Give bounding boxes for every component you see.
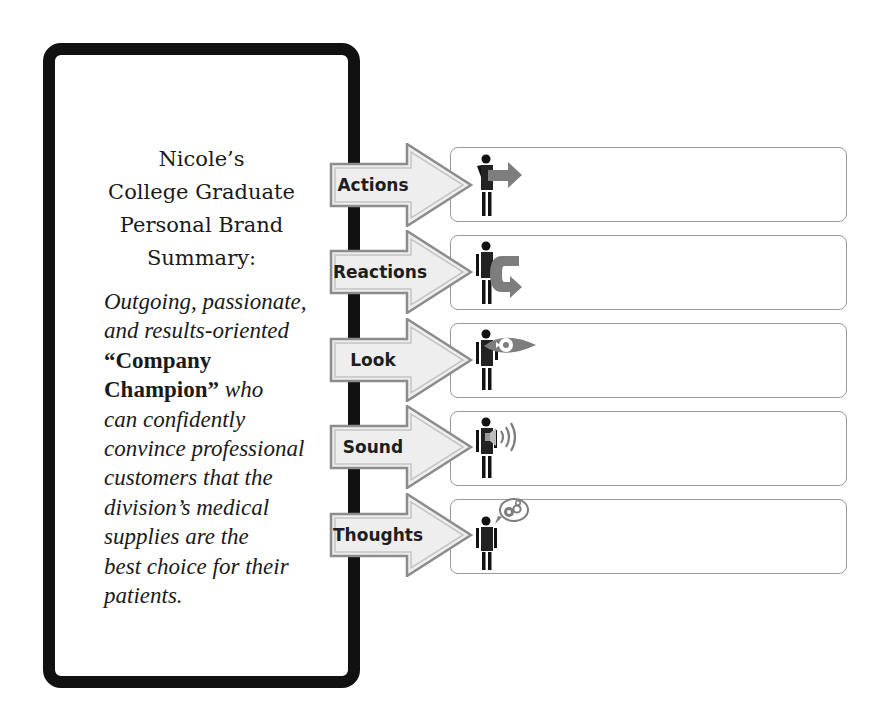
title-line-3: Personal Brand	[55, 209, 348, 242]
person-return-arrow-icon	[474, 240, 534, 306]
summary-line-6: convince professional	[104, 434, 354, 463]
title-line-1: Nicole’s	[55, 143, 348, 176]
actions-arrow: Actions	[329, 143, 475, 227]
sound-label: Sound	[333, 433, 413, 461]
person-pointing-arrow-icon	[474, 154, 534, 218]
panel-title: Nicole’s College Graduate Personal Brand…	[55, 143, 348, 275]
summary-line-4-bold: Champion”	[104, 377, 219, 402]
summary-line-4: Champion” who	[104, 375, 354, 404]
title-line-4: Summary:	[55, 242, 348, 275]
title-line-2: College Graduate	[55, 176, 348, 209]
person-eye-icon	[474, 328, 540, 392]
look-label: Look	[333, 346, 413, 374]
thoughts-arrow: Thoughts	[329, 493, 475, 577]
person-thought-gears-icon	[474, 496, 540, 572]
summary-line-1: Outgoing, passionate,	[104, 287, 354, 316]
summary-line-7: customers that the	[104, 463, 354, 492]
summary-line-8: division’s medical	[104, 493, 354, 522]
reactions-label: Reactions	[333, 258, 413, 286]
summary-statement: Outgoing, passionate, and results-orient…	[104, 287, 354, 610]
thoughts-label: Thoughts	[333, 521, 413, 549]
summary-line-4-italic: who	[219, 377, 263, 402]
brand-summary-panel: Nicole’s College Graduate Personal Brand…	[43, 43, 360, 688]
actions-label: Actions	[333, 171, 413, 199]
reactions-arrow: Reactions	[329, 230, 475, 314]
summary-line-5: can confidently	[104, 405, 354, 434]
look-arrow: Look	[329, 318, 475, 402]
summary-line-9: supplies are the	[104, 522, 354, 551]
summary-line-10: best choice for their	[104, 552, 354, 581]
summary-line-3: “Company	[104, 346, 354, 375]
summary-line-11: patients.	[104, 581, 354, 610]
sound-arrow: Sound	[329, 405, 475, 489]
summary-line-2: and results-oriented	[104, 316, 354, 345]
person-speaker-icon	[474, 416, 534, 482]
